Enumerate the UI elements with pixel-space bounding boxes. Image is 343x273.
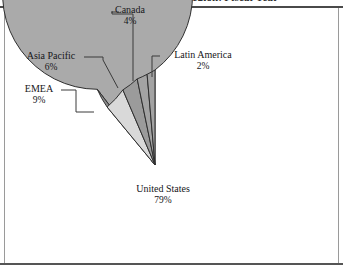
pie-label-latin-america: Latin America 2% bbox=[160, 50, 246, 71]
chart-figure: Revenue by Geographic Region, Fiscal Yea… bbox=[0, 0, 343, 273]
pie-label-latin-america-name: Latin America bbox=[160, 50, 246, 61]
pie-label-latin-america-percent: 2% bbox=[160, 61, 246, 71]
pie-label-canada-name: Canada bbox=[100, 5, 160, 16]
pie-label-emea-name: EMEA bbox=[16, 84, 62, 95]
pie-label-united-states-percent: 79% bbox=[125, 195, 201, 205]
pie-label-emea-percent: 9% bbox=[16, 95, 62, 105]
pie-label-asia-pacific: Asia Pacific 6% bbox=[16, 51, 86, 72]
pie-label-asia-pacific-name: Asia Pacific bbox=[16, 51, 86, 62]
pie-label-united-states: United States 79% bbox=[125, 184, 201, 205]
pie-label-canada: Canada 4% bbox=[100, 5, 160, 26]
pie-label-united-states-name: United States bbox=[125, 184, 201, 195]
pie-label-canada-percent: 4% bbox=[100, 16, 160, 26]
leader-line-emea bbox=[61, 90, 94, 112]
pie-chart-graphic bbox=[0, 0, 343, 273]
pie-label-emea: EMEA 9% bbox=[16, 84, 62, 105]
pie-label-asia-pacific-percent: 6% bbox=[16, 62, 86, 72]
